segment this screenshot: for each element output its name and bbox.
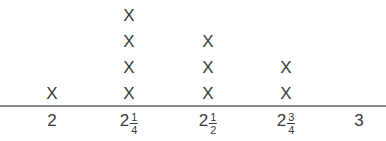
x-mark: X [202,85,213,102]
x-mark: X [123,59,134,76]
x-mark: X [123,33,134,50]
fraction: 34 [287,112,295,135]
fraction: 14 [130,112,138,135]
tick-label: 214 [120,112,138,135]
x-mark: X [46,85,57,102]
x-mark: X [280,59,291,76]
tick-label: 212 [199,112,217,135]
x-mark: X [123,7,134,24]
tick-label: 2 [47,112,56,129]
fraction: 12 [209,112,217,135]
tick-label: 234 [277,112,295,135]
x-mark: X [202,33,213,50]
number-line-axis [0,105,386,107]
x-mark: X [202,59,213,76]
x-mark: X [280,85,291,102]
tick-label: 3 [354,112,363,129]
x-mark: X [123,85,134,102]
